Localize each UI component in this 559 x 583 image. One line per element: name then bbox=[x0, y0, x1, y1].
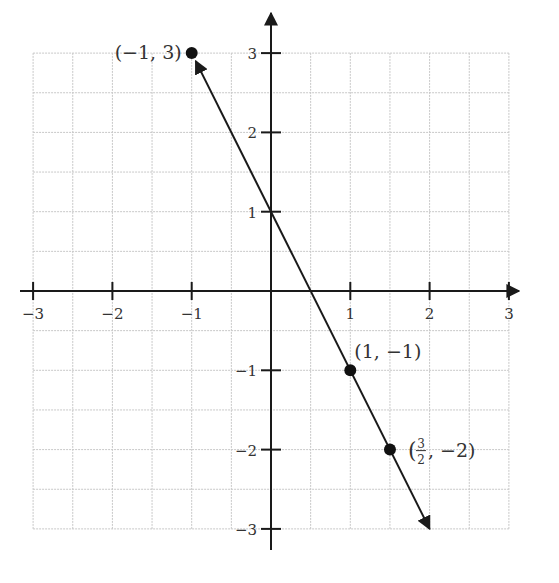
y-tick-label: 1 bbox=[247, 204, 257, 222]
label-rest: , −2) bbox=[428, 439, 476, 461]
y-tick-label: 2 bbox=[247, 124, 257, 142]
graph-line bbox=[196, 61, 430, 529]
x-tick-label: −1 bbox=[181, 305, 203, 323]
y-tick-label: 3 bbox=[247, 45, 257, 63]
fraction-denominator: 2 bbox=[417, 453, 425, 467]
point-label: (1, −1) bbox=[354, 340, 421, 362]
x-tick-label: 3 bbox=[504, 305, 514, 323]
y-tick-label: −1 bbox=[235, 362, 257, 380]
data-point bbox=[344, 364, 356, 376]
data-point bbox=[186, 47, 198, 59]
y-tick-label: −2 bbox=[235, 442, 257, 460]
data-point bbox=[384, 444, 396, 456]
x-tick-label: −2 bbox=[101, 305, 123, 323]
y-tick-label: −3 bbox=[235, 521, 257, 539]
paren-left: ( bbox=[408, 438, 417, 463]
coordinate-plane: −3−2−1123−3−2−1123 (−1, 3)(1, −1)(32, −2… bbox=[0, 0, 559, 583]
chart-svg: −3−2−1123−3−2−1123 (−1, 3)(1, −1)(32, −2… bbox=[0, 0, 559, 583]
x-tick-label: 2 bbox=[425, 305, 435, 323]
point-label: (−1, 3) bbox=[115, 41, 182, 63]
point-label: (32, −2) bbox=[408, 437, 476, 467]
x-tick-label: −3 bbox=[22, 305, 44, 323]
points: (−1, 3)(1, −1)(32, −2) bbox=[115, 41, 476, 467]
line-y-equals-minus-2x-plus-1 bbox=[196, 61, 430, 529]
fraction-numerator: 3 bbox=[417, 437, 425, 451]
x-tick-label: 1 bbox=[346, 305, 356, 323]
axes bbox=[20, 13, 519, 550]
